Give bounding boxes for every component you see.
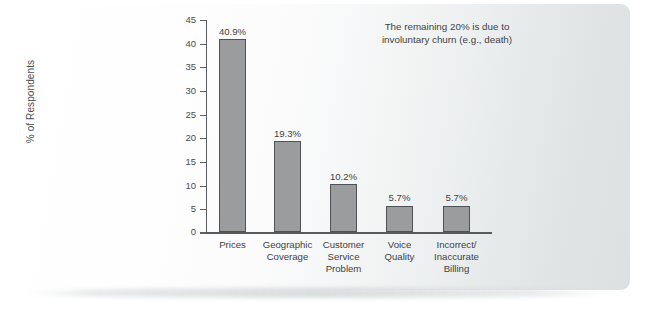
bar-value-customer-service-problem: 10.2% bbox=[317, 172, 370, 182]
y-axis-title: % of Respondents bbox=[25, 42, 36, 162]
bar-prices bbox=[219, 39, 246, 232]
category-label-line: Coverage bbox=[256, 251, 319, 263]
category-label-geographic-coverage: Geographic Coverage bbox=[256, 239, 319, 263]
category-label-line: Service bbox=[314, 251, 373, 263]
bar-customer-service-problem bbox=[330, 184, 357, 232]
y-tick-5 bbox=[200, 209, 206, 210]
y-tick-20 bbox=[200, 138, 206, 139]
y-tick-label-10: 10 bbox=[172, 181, 196, 191]
y-tick-label-25: 25 bbox=[172, 110, 196, 120]
y-tick-label-30: 30 bbox=[172, 86, 196, 96]
category-label-line: Prices bbox=[203, 239, 262, 251]
category-label-prices: Prices bbox=[203, 239, 262, 251]
category-label-line: Geographic bbox=[256, 239, 319, 251]
y-tick-label-45: 45 bbox=[172, 15, 196, 25]
bar-value-incorrect-inaccurate-billing: 5.7% bbox=[430, 193, 483, 203]
y-tick-label-15: 15 bbox=[172, 157, 196, 167]
bar-voice-quality bbox=[386, 206, 413, 233]
category-label-line: Problem bbox=[314, 263, 373, 275]
y-tick-0 bbox=[200, 232, 206, 233]
category-label-line: Incorrect/ bbox=[425, 239, 488, 251]
bar-geographic-coverage bbox=[274, 141, 301, 232]
chart-page: % of Respondents 45 40 35 30 25 20 15 10… bbox=[0, 0, 646, 319]
y-tick-10 bbox=[200, 186, 206, 187]
y-tick-30 bbox=[200, 91, 206, 92]
category-label-line: Quality bbox=[371, 251, 428, 263]
bar-value-prices: 40.9% bbox=[206, 27, 259, 37]
bar-incorrect-inaccurate-billing bbox=[443, 206, 470, 233]
y-tick-45 bbox=[200, 20, 206, 21]
y-tick-15 bbox=[200, 162, 206, 163]
category-label-line: Voice bbox=[371, 239, 428, 251]
category-label-voice-quality: Voice Quality bbox=[371, 239, 428, 263]
chart-annotation: The remaining 20% is due to involuntary … bbox=[352, 20, 542, 46]
y-tick-25 bbox=[200, 115, 206, 116]
y-tick-35 bbox=[200, 67, 206, 68]
annotation-line-2: involuntary churn (e.g., death) bbox=[352, 33, 542, 46]
y-tick-label-40: 40 bbox=[172, 39, 196, 49]
bar-value-voice-quality: 5.7% bbox=[373, 193, 426, 203]
y-tick-label-0: 0 bbox=[172, 227, 196, 237]
y-tick-label-5: 5 bbox=[172, 204, 196, 214]
category-label-incorrect-inaccurate-billing: Incorrect/ Inaccurate Billing bbox=[425, 239, 488, 276]
bar-value-geographic-coverage: 19.3% bbox=[261, 129, 314, 139]
y-axis-line bbox=[206, 20, 207, 233]
annotation-line-1: The remaining 20% is due to bbox=[352, 20, 542, 33]
y-tick-label-35: 35 bbox=[172, 62, 196, 72]
category-label-line: Inaccurate bbox=[425, 251, 488, 263]
x-axis-line bbox=[206, 232, 492, 233]
category-label-customer-service-problem: Customer Service Problem bbox=[314, 239, 373, 276]
category-label-line: Billing bbox=[425, 263, 488, 275]
y-tick-label-20: 20 bbox=[172, 133, 196, 143]
bar-chart-plot: % of Respondents 45 40 35 30 25 20 15 10… bbox=[0, 0, 646, 319]
y-tick-40 bbox=[200, 44, 206, 45]
category-label-line: Customer bbox=[314, 239, 373, 251]
